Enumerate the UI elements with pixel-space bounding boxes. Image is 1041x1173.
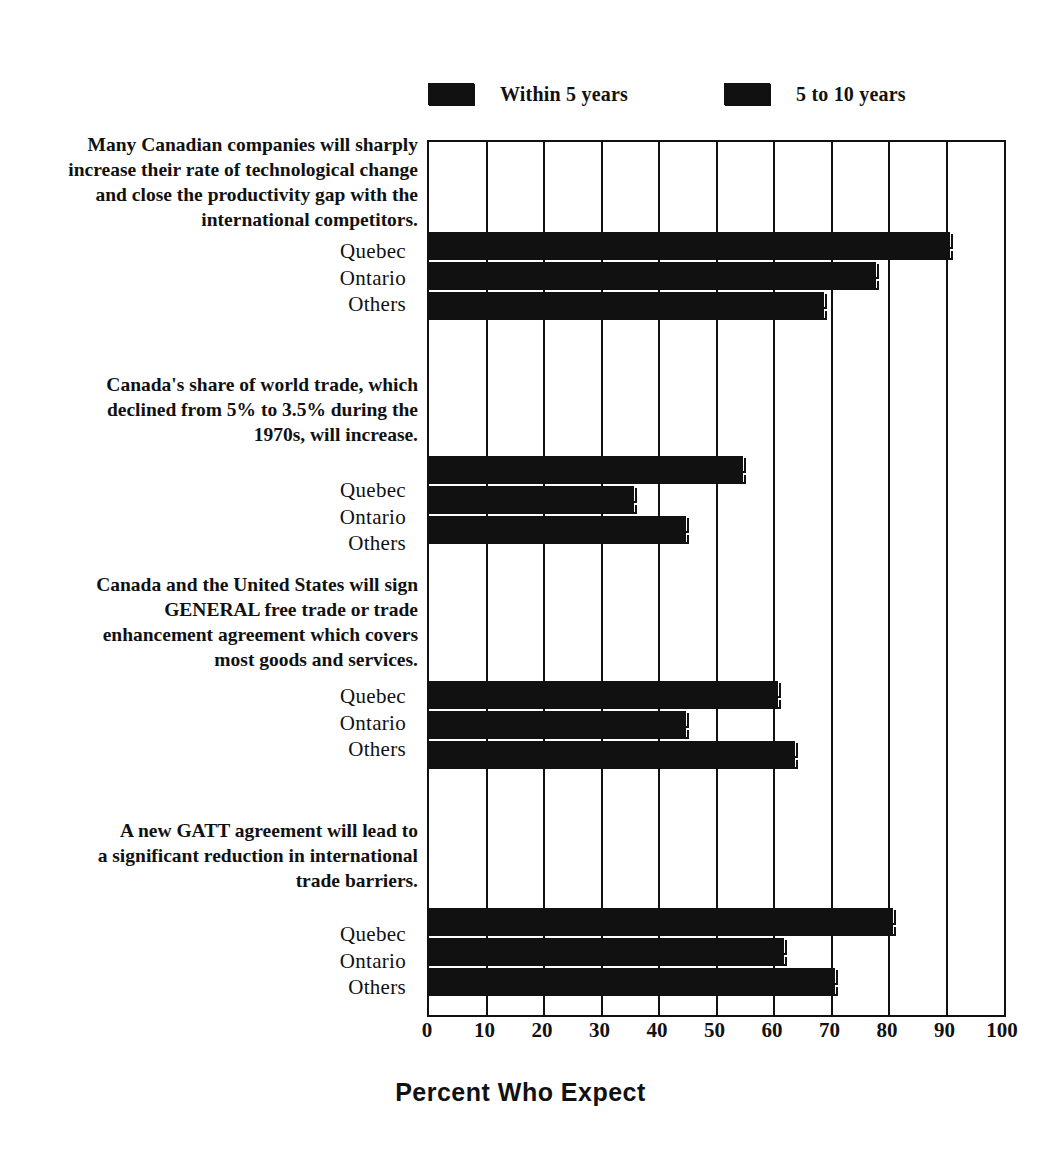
- question-line: a significant reduction in international: [0, 843, 418, 868]
- bar-group-4: [427, 908, 894, 994]
- row-label-ontario: Ontario: [0, 948, 406, 975]
- x-tick-label: 100: [986, 1018, 1018, 1043]
- question-line: Canada's share of world trade, which: [0, 372, 418, 397]
- bar-pair-others: [427, 292, 951, 318]
- bar-ontario-within-5-years: [427, 486, 635, 501]
- question-line: most goods and services.: [0, 647, 418, 672]
- bar-pair-quebec: [427, 908, 894, 934]
- bar-quebec-within-5-years: [427, 908, 894, 923]
- bar-ontario-within-5-years: [427, 262, 877, 277]
- row-labels-3: Quebec Ontario Others: [0, 683, 424, 763]
- x-tick-label: 20: [532, 1018, 553, 1043]
- row-label-others: Others: [0, 291, 406, 318]
- bar-group-2: [427, 456, 744, 542]
- row-label-quebec: Quebec: [0, 477, 406, 504]
- question-text-2: Canada's share of world trade, which dec…: [0, 372, 424, 447]
- question-block-1: Many Canadian companies will sharply inc…: [0, 132, 424, 318]
- question-line: declined from 5% to 3.5% during the: [0, 397, 418, 422]
- bar-others-5-to-10-years: [427, 985, 836, 994]
- bar-others-within-5-years: [427, 741, 796, 756]
- row-label-ontario: Ontario: [0, 265, 406, 292]
- row-label-others: Others: [0, 530, 406, 557]
- x-tick-label: 40: [647, 1018, 668, 1043]
- legend-entry-5-to-10-years: 5 to 10 years: [724, 83, 906, 106]
- bar-pair-quebec: [427, 456, 744, 482]
- question-line: trade barriers.: [0, 868, 418, 893]
- bar-quebec-5-to-10-years: [427, 473, 744, 482]
- row-label-quebec: Quebec: [0, 683, 406, 710]
- x-tick-label: 90: [934, 1018, 955, 1043]
- x-tick-label: 70: [819, 1018, 840, 1043]
- x-tick-label: 50: [704, 1018, 725, 1043]
- bar-pair-others: [427, 516, 744, 542]
- question-line: GENERAL free trade or trade: [0, 597, 418, 622]
- question-line: and close the productivity gap with the: [0, 182, 418, 207]
- bar-pair-quebec: [427, 681, 796, 707]
- row-labels-4: Quebec Ontario Others: [0, 921, 424, 1001]
- row-label-others: Others: [0, 974, 406, 1001]
- bar-pair-others: [427, 741, 796, 767]
- legend-swatch-5-to-10-years: [724, 83, 770, 105]
- bar-others-within-5-years: [427, 516, 687, 531]
- x-tick-label: 30: [589, 1018, 610, 1043]
- bar-others-within-5-years: [427, 968, 836, 983]
- bar-ontario-5-to-10-years: [427, 955, 785, 964]
- bar-ontario-5-to-10-years: [427, 503, 635, 512]
- bar-others-5-to-10-years: [427, 533, 687, 542]
- question-line: Many Canadian companies will sharply: [0, 132, 418, 157]
- bar-group-1: [427, 232, 951, 318]
- question-line: increase their rate of technological cha…: [0, 157, 418, 182]
- legend-label-within-5-years: Within 5 years: [500, 83, 628, 106]
- bar-pair-ontario: [427, 711, 796, 737]
- legend-label-5-to-10-years: 5 to 10 years: [796, 83, 906, 106]
- bar-others-within-5-years: [427, 292, 825, 307]
- x-axis-label: Percent Who Expect: [0, 1078, 1041, 1107]
- row-labels-1: Quebec Ontario Others: [0, 238, 424, 318]
- bar-others-5-to-10-years: [427, 758, 796, 767]
- bar-quebec-5-to-10-years: [427, 249, 951, 258]
- legend-entry-within-5-years: Within 5 years: [428, 83, 628, 106]
- bar-group-3: [427, 681, 796, 767]
- x-tick-label: 10: [474, 1018, 495, 1043]
- bar-pair-quebec: [427, 232, 951, 258]
- row-label-others: Others: [0, 736, 406, 763]
- question-text-1: Many Canadian companies will sharply inc…: [0, 132, 424, 232]
- question-block-3: Canada and the United States will sign G…: [0, 572, 424, 763]
- row-labels-2: Quebec Ontario Others: [0, 477, 424, 557]
- row-label-ontario: Ontario: [0, 504, 406, 531]
- bar-quebec-within-5-years: [427, 681, 779, 696]
- question-text-3: Canada and the United States will sign G…: [0, 572, 424, 672]
- question-block-2: Canada's share of world trade, which dec…: [0, 372, 424, 557]
- bar-pair-ontario: [427, 486, 744, 512]
- bar-quebec-within-5-years: [427, 456, 744, 471]
- question-text-4: A new GATT agreement will lead to a sign…: [0, 818, 424, 893]
- x-tick-label: 80: [877, 1018, 898, 1043]
- bar-others-5-to-10-years: [427, 309, 825, 318]
- bar-pair-ontario: [427, 262, 951, 288]
- row-label-ontario: Ontario: [0, 710, 406, 737]
- question-line: A new GATT agreement will lead to: [0, 818, 418, 843]
- question-line: international competitors.: [0, 207, 418, 232]
- question-line: 1970s, will increase.: [0, 422, 418, 447]
- bar-ontario-within-5-years: [427, 938, 785, 953]
- bar-quebec-5-to-10-years: [427, 698, 779, 707]
- x-tick-label: 0: [422, 1018, 433, 1043]
- bar-ontario-5-to-10-years: [427, 728, 687, 737]
- bar-pair-others: [427, 968, 894, 994]
- question-line: enhancement agreement which covers: [0, 622, 418, 647]
- bar-quebec-5-to-10-years: [427, 925, 894, 934]
- bar-ontario-5-to-10-years: [427, 279, 877, 288]
- bar-ontario-within-5-years: [427, 711, 687, 726]
- row-label-quebec: Quebec: [0, 238, 406, 265]
- chart-legend: Within 5 years 5 to 10 years: [0, 74, 1041, 114]
- bar-quebec-within-5-years: [427, 232, 951, 247]
- question-line: Canada and the United States will sign: [0, 572, 418, 597]
- x-axis-ticks: 0102030405060708090100: [427, 1018, 1002, 1048]
- bar-pair-ontario: [427, 938, 894, 964]
- row-label-quebec: Quebec: [0, 921, 406, 948]
- question-block-4: A new GATT agreement will lead to a sign…: [0, 818, 424, 1001]
- legend-swatch-within-5-years: [428, 83, 474, 105]
- x-tick-label: 60: [762, 1018, 783, 1043]
